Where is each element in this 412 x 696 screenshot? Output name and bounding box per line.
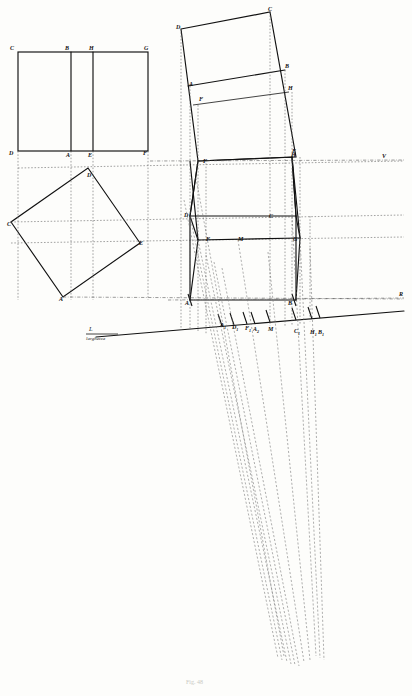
horizontal-projectors — [11, 161, 404, 299]
horizon-line — [150, 160, 404, 300]
horizon-right-label-R: R — [399, 291, 403, 297]
ground-mark-H1: H1 — [310, 329, 317, 337]
plan-label-D: D — [87, 172, 91, 178]
elevation-label-F: F — [143, 150, 147, 156]
vanishing-point-label-V: V — [382, 153, 386, 159]
plan-label-E: E — [139, 240, 143, 246]
tilted-label-F2: F — [203, 158, 207, 164]
figure-caption: Fig. 48 — [186, 679, 203, 685]
prism-label-A: A — [185, 300, 189, 306]
elevation-label-E: E — [88, 152, 92, 158]
elevation-label-D: D — [9, 150, 13, 156]
elevation-label-B: B — [65, 45, 69, 51]
prism-label-G: G — [293, 236, 297, 242]
plan-rotated-square — [11, 168, 140, 297]
measuring-line-name: larghezza — [86, 336, 105, 341]
perspective-prism — [190, 157, 300, 300]
tilted-label-H: H — [288, 85, 293, 91]
ground-mark-A1: A1 — [220, 322, 226, 330]
plan-label-A: A — [59, 296, 63, 302]
drawing-plate: .solid{fill:none;stroke:#111;stroke-widt… — [0, 0, 412, 696]
ground-mark-A2: A2 — [253, 326, 259, 334]
ground-mark-M: M — [268, 326, 273, 334]
ground-mark-B1: B1 — [318, 329, 324, 337]
ground-mark-C1: C1 — [294, 328, 300, 336]
tilted-label-B: B — [285, 63, 289, 69]
prism-label-D: D — [184, 212, 188, 218]
prism-label-M: M — [238, 236, 243, 242]
geometry-canvas: .solid{fill:none;stroke:#111;stroke-widt… — [0, 0, 412, 696]
elevation-label-H: H — [89, 45, 94, 51]
prism-label-C: C — [269, 213, 273, 219]
prism-label-F: F — [206, 236, 210, 242]
elevation-label-G: G — [144, 45, 148, 51]
ground-mark-D1: D1 — [232, 324, 238, 332]
tilted-label-F: F — [199, 96, 203, 102]
prism-label-B: B — [288, 300, 292, 306]
prism-label-H: H — [291, 152, 296, 158]
elevation-rectangle — [18, 52, 148, 151]
projection-rays — [184, 178, 324, 666]
plan-label-C: C — [7, 221, 11, 227]
ground-mark-F1: F1 — [245, 325, 251, 333]
elevation-label-A: A — [66, 152, 70, 158]
elevation-label-C: C — [10, 45, 14, 51]
measuring-line-symbol: L — [89, 325, 93, 332]
tilted-label-D: D — [176, 24, 180, 30]
tilted-label-C: C — [268, 6, 272, 12]
tilted-label-A: A — [189, 81, 193, 87]
right-drop-lines — [181, 12, 310, 334]
